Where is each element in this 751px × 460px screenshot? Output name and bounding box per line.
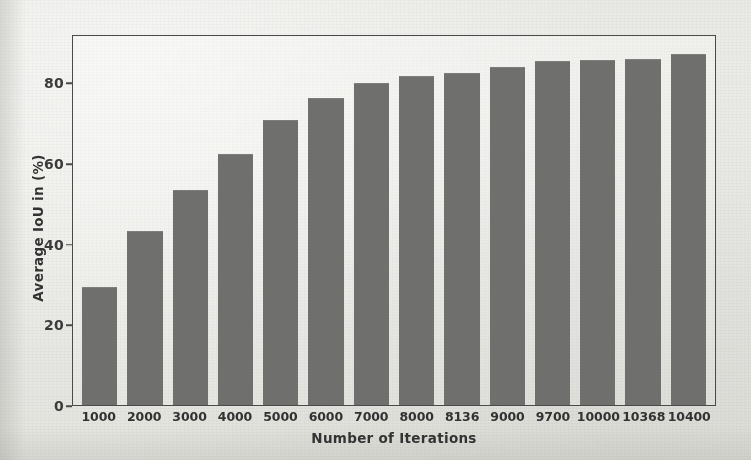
bar	[173, 190, 208, 405]
bar-slot	[485, 36, 530, 405]
bar-slot	[394, 36, 439, 405]
y-axis-tick-label: 60	[44, 156, 64, 172]
bar-slot	[77, 36, 122, 405]
bar	[580, 60, 615, 405]
bar-slot	[530, 36, 575, 405]
bar	[444, 73, 479, 405]
x-axis-tick-label: 1000	[76, 409, 121, 424]
bar	[399, 76, 434, 405]
bar	[535, 61, 570, 405]
y-axis-tick-label: 20	[44, 317, 64, 333]
bar-slot	[666, 36, 711, 405]
x-axis-tick-label: 7000	[349, 409, 394, 424]
bar	[263, 120, 298, 405]
bar-slot	[122, 36, 167, 405]
x-axis-tick-label: 6000	[303, 409, 348, 424]
y-axis-tick-label: 0	[54, 398, 64, 414]
x-axis-title: Number of Iterations	[72, 430, 716, 446]
y-axis-tick-label: 80	[44, 75, 64, 91]
x-axis-tick-labels: 1000200030004000500060007000800081369000…	[72, 409, 716, 424]
plot-area	[72, 35, 716, 406]
bar	[625, 59, 660, 405]
bar	[218, 154, 253, 405]
x-axis-tick-label: 10000	[576, 409, 621, 424]
x-axis-tick-label: 9000	[485, 409, 530, 424]
bar	[354, 83, 389, 405]
y-axis-title: Average IoU in (%)	[30, 128, 46, 328]
bar	[127, 231, 162, 405]
x-axis-tick-label: 4000	[212, 409, 257, 424]
x-axis-tick-label: 5000	[258, 409, 303, 424]
bar-slot	[349, 36, 394, 405]
bar-slot	[303, 36, 348, 405]
bar-slot	[168, 36, 213, 405]
x-axis-tick-label: 10400	[666, 409, 711, 424]
x-axis-tick-label: 9700	[530, 409, 575, 424]
bar-series	[73, 36, 715, 405]
bar	[671, 54, 706, 405]
bar-slot	[439, 36, 484, 405]
x-axis-tick-label: 3000	[167, 409, 212, 424]
x-axis-tick-label: 8000	[394, 409, 439, 424]
bar	[82, 287, 117, 405]
bar-slot	[213, 36, 258, 405]
bar	[490, 67, 525, 405]
bar-slot	[258, 36, 303, 405]
x-axis-tick-label: 2000	[121, 409, 166, 424]
chart-page: 020406080 Average IoU in (%) 10002000300…	[0, 0, 751, 460]
y-axis-tick-label: 40	[44, 237, 64, 253]
bar-slot	[575, 36, 620, 405]
bar-slot	[620, 36, 665, 405]
x-axis-tick-label: 8136	[439, 409, 484, 424]
x-axis-tick-label: 10368	[621, 409, 666, 424]
bar	[308, 98, 343, 405]
